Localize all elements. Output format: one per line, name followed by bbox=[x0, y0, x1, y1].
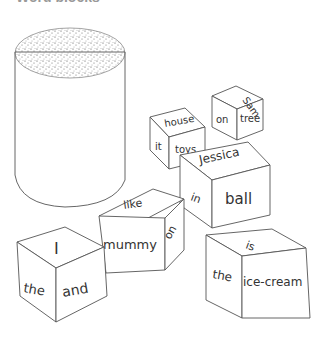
cube-face-top: I bbox=[54, 239, 59, 258]
cube-like: like mummy on bbox=[99, 189, 184, 273]
cube-face-left: it bbox=[155, 141, 162, 152]
cube-jessica: Jessica in ball bbox=[180, 142, 270, 228]
cube-sam: Sam on tree bbox=[212, 86, 263, 140]
cube-face-right: ball bbox=[225, 190, 252, 208]
cube-face-left: mummy bbox=[103, 237, 157, 252]
cube-face-top: like bbox=[123, 196, 144, 212]
cube-face-right: tree bbox=[240, 113, 260, 124]
word-cubes-illustration: Word blocks Sam on tree house it toys Je… bbox=[0, 0, 319, 337]
cube-is: is the ice-cream bbox=[206, 229, 310, 318]
cylinder bbox=[15, 28, 125, 207]
cube-face-left: on bbox=[216, 114, 228, 125]
cylinder-top bbox=[15, 28, 125, 78]
cube-face-right: ice-cream bbox=[243, 275, 302, 289]
header-text: Word blocks bbox=[16, 0, 100, 5]
cube-i: I the and bbox=[17, 227, 107, 322]
